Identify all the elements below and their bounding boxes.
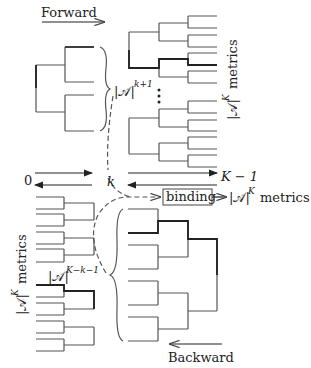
dashed-link-top	[108, 96, 113, 170]
bottom-metrics-label: |𝒜| K metrics	[10, 234, 29, 315]
svg-text:metrics: metrics	[225, 39, 240, 89]
binding-output-exp: K	[247, 186, 256, 196]
binding-output-A: |𝒜|	[229, 190, 250, 205]
top-metrics-label: |𝒜| K metrics	[221, 39, 240, 120]
top-brace-A: |𝒜|	[114, 84, 135, 99]
svg-text:|𝒜|: |𝒜|	[14, 294, 29, 315]
binding-output-metrics: metrics	[260, 190, 310, 205]
forward-tree-lower	[129, 101, 217, 167]
forward-label: Forward	[41, 5, 97, 20]
zero-label: 0	[24, 173, 32, 188]
svg-text:K: K	[221, 93, 231, 102]
trellis-diagram: Forward Backward 0 k K − 1 binding |𝒜| K…	[0, 0, 311, 368]
svg-text:K: K	[10, 288, 20, 297]
backward-label: Backward	[168, 350, 234, 365]
bottom-brace-exp: K−k−1	[65, 265, 99, 275]
forward-tree-upper	[129, 16, 217, 83]
forward-tree-small	[36, 47, 94, 131]
backward-tree-large	[128, 209, 217, 341]
svg-text:|𝒜|: |𝒜|	[225, 99, 240, 120]
k-label: k	[107, 174, 115, 189]
top-brace-exp: k+1	[134, 79, 153, 89]
brace-bottom	[110, 209, 123, 341]
diagram-canvas: Forward Backward 0 k K − 1 binding |𝒜| K…	[0, 0, 311, 368]
binding-label: binding	[166, 189, 216, 204]
svg-text:metrics: metrics	[14, 234, 29, 284]
dashed-link-bottom	[94, 197, 161, 273]
K-minus-1-label: K − 1	[220, 169, 258, 184]
brace-top	[100, 47, 110, 131]
